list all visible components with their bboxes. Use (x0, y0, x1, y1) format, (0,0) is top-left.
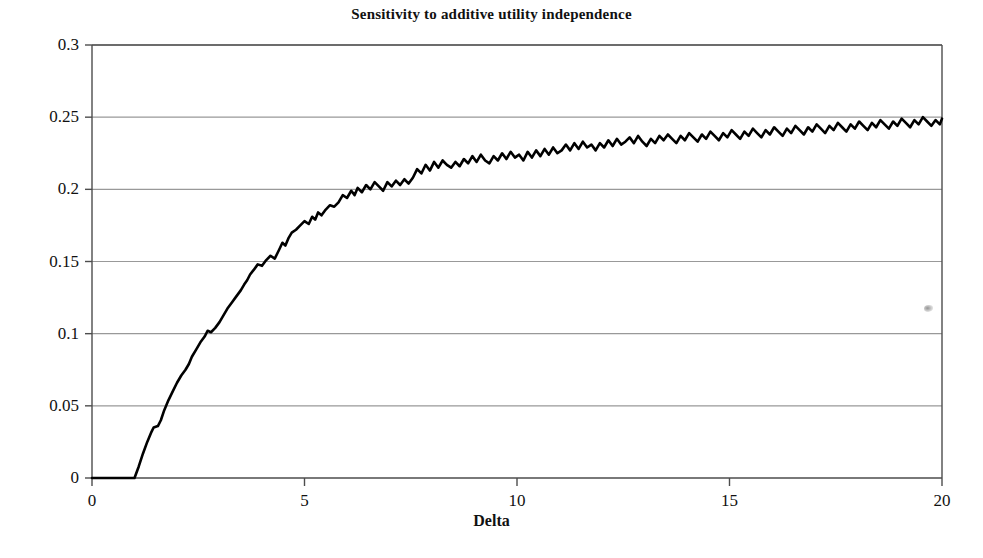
axis-ticks (85, 45, 942, 486)
data-line-sensitivity (92, 117, 942, 478)
y-tick-label: 0 (0, 468, 79, 488)
x-tick-label: 15 (721, 491, 738, 511)
x-tick-label: 10 (509, 491, 526, 511)
y-tick-label: 0.2 (0, 179, 79, 199)
y-tick-label: 0.05 (0, 396, 79, 416)
y-tick-label: 0.1 (0, 324, 79, 344)
x-tick-label: 5 (300, 491, 309, 511)
x-axis-title: Delta (0, 512, 983, 530)
x-tick-label: 20 (934, 491, 951, 511)
gridlines (92, 45, 942, 478)
chart-figure: Sensitivity to additive utility independ… (0, 0, 983, 558)
y-tick-label: 0.15 (0, 252, 79, 272)
y-tick-label: 0.3 (0, 35, 79, 55)
y-tick-label: 0.25 (0, 107, 79, 127)
x-tick-label: 0 (88, 491, 97, 511)
plot-area (0, 0, 983, 558)
